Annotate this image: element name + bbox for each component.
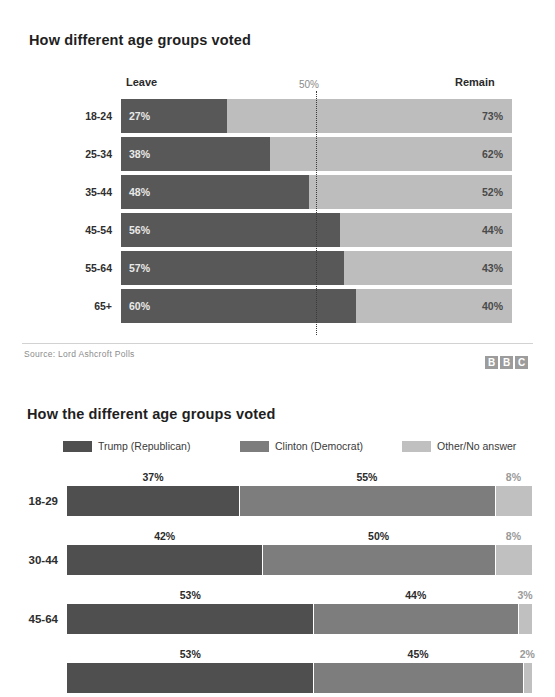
bbc-value-label-leave: 38%	[129, 148, 150, 160]
us-segment-1	[239, 486, 495, 516]
bbc-axis-header-remain: Remain	[455, 76, 495, 88]
bbc-segment-leave	[121, 251, 344, 285]
us-category-label: 45-64	[29, 604, 58, 634]
bbc-segment-leave	[121, 213, 340, 247]
us-stacked-bar	[67, 663, 532, 693]
us-segment-2	[518, 604, 532, 634]
us-stacked-bar	[67, 545, 532, 575]
us-value-label: 8%	[506, 471, 521, 483]
us-segment-1	[313, 604, 518, 634]
us-bar-group: 53%45%2%	[67, 648, 532, 697]
bbc-value-label-remain: 62%	[482, 148, 503, 160]
legend-swatch-other	[402, 441, 431, 452]
bbc-logo-letter-2: C	[515, 356, 528, 369]
us-segment-2	[495, 486, 532, 516]
legend-swatch-clinton	[240, 441, 269, 452]
legend-item-label: Other/No answer	[437, 440, 516, 452]
bbc-category-label: 35-44	[85, 186, 112, 198]
bbc-value-label-remain: 43%	[482, 262, 503, 274]
us-value-label: 53%	[180, 589, 201, 601]
us-value-label-row: 53%44%3%	[67, 589, 532, 604]
us-category-label: 30-44	[29, 545, 58, 575]
bbc-segment-leave	[121, 289, 356, 323]
bbc-value-label-leave: 60%	[129, 300, 150, 312]
bbc-plot-area: 18-2427%73%25-3438%62%35-4448%52%45-5456…	[121, 99, 512, 327]
us-value-label: 44%	[405, 589, 426, 601]
bbc-value-label-leave: 56%	[129, 224, 150, 236]
us-bar-group: 30-4442%50%8%	[67, 530, 532, 589]
bbc-axis-header-leave: Leave	[126, 76, 157, 88]
us-stacked-bar	[67, 486, 532, 516]
us-bar-group: 18-2937%55%8%	[67, 471, 532, 530]
legend-item-label: Clinton (Democrat)	[275, 440, 363, 452]
us-chart-legend: Trump (Republican)Clinton (Democrat)Othe…	[63, 440, 533, 456]
us-plot-area: 18-2937%55%8%30-4442%50%8%45-6453%44%3%5…	[67, 471, 532, 697]
us-stacked-bar	[67, 604, 532, 634]
us-segment-2	[495, 545, 532, 575]
bbc-source-note: Source: Lord Ashcroft Polls	[24, 349, 135, 359]
us-segment-0	[67, 604, 313, 634]
us-segment-0	[67, 663, 313, 693]
us-value-label-row: 42%50%8%	[67, 530, 532, 545]
bbc-category-label: 65+	[94, 300, 112, 312]
us-segment-0	[67, 545, 262, 575]
bbc-value-label-leave: 57%	[129, 262, 150, 274]
us-value-label: 53%	[180, 648, 201, 660]
us-value-label: 2%	[520, 648, 535, 660]
us-value-label: 42%	[154, 530, 175, 542]
us-value-label: 3%	[517, 589, 532, 601]
us-segment-2	[523, 663, 532, 693]
us-value-label-row: 37%55%8%	[67, 471, 532, 486]
us-category-label: 18-29	[29, 486, 58, 516]
bbc-chart-title: How different age groups voted	[29, 32, 251, 48]
us-bar-group: 45-6453%44%3%	[67, 589, 532, 648]
bbc-category-label: 25-34	[85, 148, 112, 160]
bbc-value-label-remain: 40%	[482, 300, 503, 312]
legend-swatch-trump	[63, 441, 92, 452]
legend-item-0[interactable]: Trump (Republican)	[63, 440, 190, 452]
bbc-brexit-chart-panel: How different age groups voted Leave 50%…	[0, 0, 555, 386]
bbc-logo-letter-0: B	[485, 356, 498, 369]
bbc-fifty-percent-reference-line	[316, 91, 317, 335]
bbc-value-label-leave: 27%	[129, 110, 150, 122]
bbc-value-label-remain: 52%	[482, 186, 503, 198]
legend-item-2[interactable]: Other/No answer	[402, 440, 516, 452]
bbc-category-label: 18-24	[85, 110, 112, 122]
us-segment-1	[262, 545, 495, 575]
bbc-axis-header-midpoint: 50%	[299, 79, 319, 90]
bbc-category-label: 55-64	[85, 262, 112, 274]
us-value-label: 37%	[143, 471, 164, 483]
us-chart-title: How the different age groups voted	[27, 406, 275, 422]
us-value-label: 55%	[356, 471, 377, 483]
bbc-footer-divider	[22, 343, 533, 344]
bbc-value-label-leave: 48%	[129, 186, 150, 198]
us-value-label-row: 53%45%2%	[67, 648, 532, 663]
bbc-value-label-remain: 44%	[482, 224, 503, 236]
us-segment-0	[67, 486, 239, 516]
us-value-label: 50%	[368, 530, 389, 542]
legend-item-1[interactable]: Clinton (Democrat)	[240, 440, 363, 452]
bbc-logo: BBC	[485, 356, 528, 369]
us-election-chart-panel: How the different age groups voted Trump…	[0, 386, 555, 675]
us-segment-1	[313, 663, 522, 693]
legend-item-label: Trump (Republican)	[98, 440, 190, 452]
bbc-logo-letter-1: B	[500, 356, 513, 369]
bbc-category-label: 45-54	[85, 224, 112, 236]
us-value-label: 8%	[506, 530, 521, 542]
bbc-value-label-remain: 73%	[482, 110, 503, 122]
us-value-label: 45%	[408, 648, 429, 660]
